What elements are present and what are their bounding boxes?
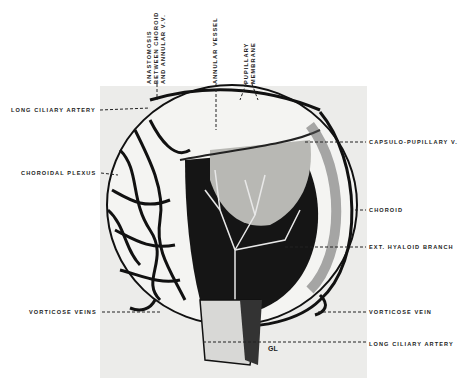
label-choroidal-plexus: CHOROIDAL PLEXUS	[21, 170, 96, 176]
label-anastomosis-line1: ANASTOMOSIS	[146, 30, 152, 84]
label-capsulo-pupillary: CAPSULO-PUPILLARY V.	[369, 139, 458, 145]
label-ext-hyaloid-branch: EXT. HYALOID BRANCH	[369, 244, 454, 250]
label-annular-vessel: ANNULAR VESSEL	[212, 17, 218, 84]
label-pupillary-membrane-line2: MEMBRANE	[250, 42, 256, 84]
label-choroid: CHOROID	[369, 207, 403, 213]
label-anastomosis-line2: BETWEEN CHOROID	[153, 12, 159, 84]
label-long-ciliary-artery-left: LONG CILIARY ARTERY	[11, 107, 96, 113]
label-anastomosis-line3: AND ANNULAR V.V.	[160, 14, 166, 84]
label-gl: GL	[268, 345, 278, 352]
eye-illustration	[0, 0, 468, 391]
label-vorticose-vein: VORTICOSE VEIN	[369, 309, 432, 315]
label-pupillary-membrane-line1: PUPILLARY	[243, 43, 249, 84]
label-long-ciliary-artery-right: LONG CILIARY ARTERY	[369, 341, 454, 347]
label-vorticose-veins: VORTICOSE VEINS	[29, 309, 97, 315]
